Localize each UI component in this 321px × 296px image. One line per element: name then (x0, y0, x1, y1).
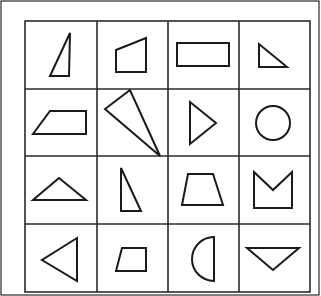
cell-r4c2-trapezoid-small (116, 248, 146, 271)
grid-lines (25, 21, 310, 292)
cell-r1c1-right-triangle-tall (50, 33, 70, 76)
cell-r1c4-right-triangle-small (259, 44, 287, 67)
cell-r1c3-rectangle (177, 43, 229, 66)
cell-r4c4-triangle-down (247, 248, 299, 270)
shape-grid-svg (0, 0, 321, 296)
cell-r1c2-quadrilateral (116, 38, 146, 72)
cell-r4c3-semicircle (192, 237, 214, 281)
cell-r2c3-triangle-right (190, 102, 216, 144)
cell-r2c4-circle (256, 106, 290, 140)
cell-r3c1-isosceles-triangle (33, 178, 86, 200)
outer-frame (1, 1, 319, 295)
cell-r4c1-triangle-left (42, 238, 77, 281)
cell-r2c1-trapezoid (33, 111, 86, 134)
cell-r3c3-trapezoid (182, 174, 223, 205)
cell-r2c2-scalene-triangle (105, 90, 160, 156)
cell-r3c2-right-triangle-narrow (121, 168, 141, 211)
shape-grid-figure (0, 0, 321, 296)
cell-r3c4-notched-pentagon (254, 172, 292, 208)
